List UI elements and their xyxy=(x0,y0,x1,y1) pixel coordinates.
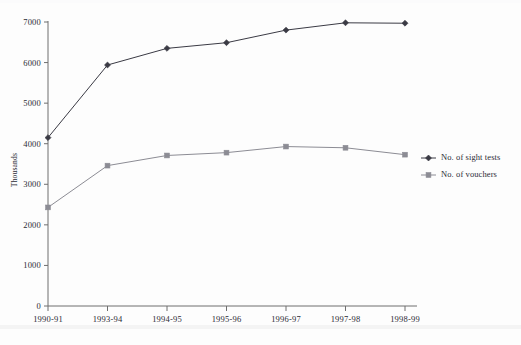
data-point-marker xyxy=(224,150,229,155)
y-tick-label: 0 xyxy=(37,301,41,311)
data-point-marker xyxy=(343,145,348,150)
legend-item-2[interactable]: No. of vouchers xyxy=(421,169,497,179)
x-tick-label: 1994-95 xyxy=(152,314,182,324)
data-point-marker xyxy=(224,40,230,46)
y-tick-label: 1000 xyxy=(23,260,41,270)
y-tick-label: 6000 xyxy=(23,58,41,68)
y-tick-label: 4000 xyxy=(23,139,41,149)
x-tick-label: 1995-96 xyxy=(212,314,242,324)
series-1 xyxy=(45,20,408,141)
data-point-marker xyxy=(164,45,170,51)
x-tick-label: 1997-98 xyxy=(331,314,361,324)
data-point-marker xyxy=(343,20,349,26)
data-point-marker xyxy=(165,153,170,158)
y-tick-label: 2000 xyxy=(23,220,41,230)
legend-marker xyxy=(426,155,432,161)
data-point-marker xyxy=(283,27,289,33)
bottom-edge-band xyxy=(0,325,521,329)
legend-label: No. of vouchers xyxy=(441,169,497,179)
x-tick-label: 1998-99 xyxy=(390,314,420,324)
data-point-marker xyxy=(46,205,51,210)
x-tick-label: 1996-97 xyxy=(271,314,301,324)
y-axis: 01000200030004000500060007000 xyxy=(23,17,48,311)
chart-legend: No. of sight testsNo. of vouchers xyxy=(421,152,500,179)
y-tick-label: 3000 xyxy=(23,179,41,189)
chart-canvas: 01000200030004000500060007000 1990-91199… xyxy=(0,0,521,345)
y-tick-label: 7000 xyxy=(23,17,41,27)
y-axis-title: Thousands xyxy=(10,153,19,187)
x-axis: 1990-911993-941994-951995-961996-971997-… xyxy=(33,306,420,324)
series-line xyxy=(48,147,405,208)
top-edge-sliver xyxy=(0,0,521,3)
data-point-marker xyxy=(284,144,289,149)
series-2 xyxy=(46,144,408,210)
data-series-group xyxy=(45,20,408,210)
legend-label: No. of sight tests xyxy=(441,152,500,162)
data-point-marker xyxy=(105,163,110,168)
legend-item-1[interactable]: No. of sight tests xyxy=(421,152,500,162)
x-tick-label: 1993-94 xyxy=(93,314,123,324)
data-point-marker xyxy=(403,152,408,157)
x-tick-label: 1990-91 xyxy=(33,314,63,324)
y-tick-label: 5000 xyxy=(23,98,41,108)
data-point-marker xyxy=(402,20,408,26)
legend-marker xyxy=(426,173,431,178)
line-chart: 01000200030004000500060007000 1990-91199… xyxy=(0,0,521,345)
